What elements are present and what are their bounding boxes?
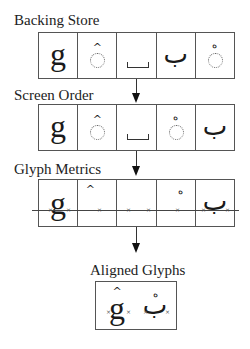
latin-g-glyph: g [39,38,77,70]
cell-sukun: ه [157,105,196,150]
x-marker-icon: × [106,309,111,315]
cell-ba: ب [196,105,234,150]
arabic-ba-glyph: ب [196,111,234,141]
x-marker-icon: × [66,207,71,213]
space-bracket-icon [127,62,149,68]
cell-space [117,180,156,226]
cell-g: g [39,33,78,78]
x-marker-icon: × [225,207,230,213]
cell-sukun: ه [196,33,234,78]
x-marker-icon: × [143,309,148,315]
arrow-down-icon [132,243,140,253]
arabic-ba-glyph: ب [140,290,170,320]
screen-order-title: Screen Order [14,87,94,103]
backing-store-title: Backing Store [14,12,99,28]
aligned-glyphs-title: Aligned Glyphs [90,262,185,278]
backing-store-row: g ^ ب ه [38,32,235,79]
cell-space [117,33,156,78]
space-bracket-icon [127,134,149,140]
x-marker-icon: × [126,309,131,315]
dotted-circle-icon [90,53,105,68]
arabic-ba-glyph: ب [157,39,195,69]
glyph-metrics-row: g ^ ه ب [38,179,235,227]
dotted-circle-icon [169,125,184,140]
arrow-down-icon [132,166,140,176]
dotted-circle-icon [90,125,105,140]
x-marker-icon: × [146,207,151,213]
x-marker-icon: × [201,207,206,213]
cell-space [117,105,156,150]
sukun-mark: ه [196,39,234,50]
cell-circumflex: ^ [78,33,117,78]
aligned-glyphs-box: ^ g × × ه ب × × [95,281,177,330]
sukun-mark: ه [167,185,195,196]
x-marker-icon: × [97,207,102,213]
cell-ba: ب [196,180,234,226]
baseline-line [32,210,239,211]
cell-ba: ب [157,33,196,78]
x-marker-icon: × [126,207,131,213]
circumflex-mark: ^ [64,184,116,195]
cell-g: g [39,105,78,150]
x-marker-icon: × [175,207,180,213]
sukun-mark: ه [157,111,195,122]
dotted-circle-icon [208,53,223,68]
circumflex-mark: ^ [78,114,116,125]
cell-circumflex: ^ [78,180,117,226]
arrow-down-icon [132,93,140,103]
circumflex-mark: ^ [78,42,116,53]
latin-g-glyph: g [39,110,77,142]
x-marker-icon: × [165,309,170,315]
cell-sukun: ه [157,180,196,226]
x-marker-icon: × [48,207,53,213]
glyph-metrics-title: Glyph Metrics [14,161,101,177]
screen-order-row: g ^ ه ب [38,104,235,151]
cell-circumflex: ^ [78,105,117,150]
